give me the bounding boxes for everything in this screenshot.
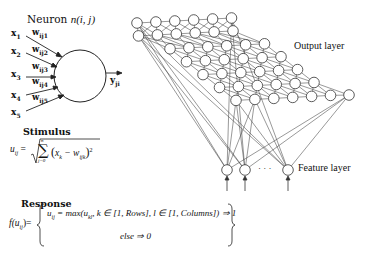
output-node: [250, 94, 261, 105]
neuron-index: n(i, j): [71, 13, 95, 25]
output-node: [188, 15, 199, 26]
output-node: [181, 56, 192, 67]
output-node: [217, 68, 228, 79]
input-x1: x1: [11, 28, 21, 40]
output-node: [133, 31, 144, 42]
feature-node: [240, 165, 251, 176]
output-node: [238, 53, 249, 64]
output-node: [236, 67, 247, 78]
response-case-2: else ⇒ 0: [120, 231, 151, 241]
output-node: [259, 39, 270, 50]
output-y: yji: [110, 75, 120, 87]
neuron-circle: [54, 50, 106, 102]
neuron-title-text: Neuron: [27, 13, 67, 25]
weight-w4: wij4: [32, 76, 48, 88]
output-layer-label: Output layer: [294, 40, 344, 51]
weight-w5: wij5: [32, 92, 48, 104]
output-node: [344, 90, 355, 101]
output-node: [214, 82, 225, 93]
input-x2: x2: [11, 46, 21, 58]
output-node: [165, 44, 176, 55]
weight-w1: wij1: [32, 27, 48, 39]
output-node: [207, 14, 218, 25]
response-case-1: uij = max(ukl, k ∈ [1, Rows], l ∈ [1, Co…: [47, 208, 236, 220]
output-layer-nodes: [132, 13, 355, 106]
stimulus-body: (xk − wijk)2: [51, 145, 92, 160]
output-node: [271, 79, 282, 90]
output-node: [240, 40, 251, 51]
output-node: [233, 81, 244, 92]
output-node: [257, 52, 268, 63]
output-node: [171, 29, 182, 40]
output-node: [325, 90, 336, 101]
feature-node: [283, 165, 294, 176]
output-node: [276, 51, 287, 62]
output-node: [292, 64, 303, 75]
response-lhs: f(uij)=: [9, 218, 31, 230]
output-node: [203, 42, 214, 53]
input-x5: x5: [11, 107, 21, 119]
output-node: [209, 27, 220, 38]
output-node: [254, 66, 265, 77]
output-node: [269, 93, 280, 104]
weight-w2: wij2: [32, 44, 48, 56]
feature-input-arrows: [225, 176, 290, 191]
output-node: [184, 43, 195, 54]
output-node: [290, 78, 301, 89]
output-node: [231, 95, 242, 106]
output-node: [221, 41, 232, 52]
output-node: [132, 18, 143, 29]
feature-ellipsis: · · ·: [258, 163, 272, 173]
output-node: [198, 69, 209, 80]
output-node: [273, 65, 284, 76]
output-node: [226, 13, 237, 24]
output-node: [170, 16, 181, 27]
stimulus-lhs: uij =: [10, 144, 26, 156]
output-node: [151, 17, 162, 28]
output-node: [309, 77, 320, 88]
output-node: [152, 30, 163, 41]
input-x4: x4: [11, 90, 21, 102]
feature-node: [222, 165, 233, 176]
output-node: [228, 26, 239, 37]
stimulus-heading: Stimulus: [23, 126, 71, 137]
sum-lower-limit: j=0: [38, 158, 45, 163]
weight-w3: wij3: [32, 61, 48, 73]
output-node: [287, 92, 298, 103]
neuron-title: Neuron n(i, j): [27, 13, 95, 25]
output-node: [252, 80, 263, 91]
input-x3: x3: [11, 69, 21, 81]
sum-symbol: ∑: [38, 141, 49, 159]
output-node: [200, 55, 211, 66]
output-node: [190, 28, 201, 39]
feature-layer-label: Feature layer: [298, 162, 350, 173]
left-brace: [37, 204, 44, 246]
output-node: [219, 54, 230, 65]
output-node: [306, 91, 317, 102]
